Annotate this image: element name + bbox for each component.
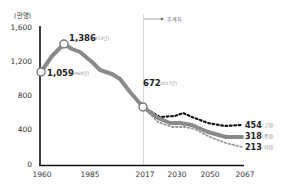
y-tick-1200: 1,200: [11, 57, 33, 66]
marker-2017: [139, 103, 147, 111]
x-tick-2017: 2017: [135, 170, 154, 179]
y-tick-0: 0: [27, 160, 32, 169]
population-chart: (만명) 1,600 1,200 800 400 0 추계치 1960 1985…: [0, 0, 286, 189]
annotation-2017-note: (2017년): [158, 80, 177, 86]
x-tick-1960: 1960: [32, 170, 51, 179]
annotation-high-value: 454: [245, 121, 262, 130]
marker-1972: [60, 40, 68, 48]
marker-1960: [37, 68, 45, 76]
arrow-right-icon: [161, 18, 164, 21]
x-tick-2067: 2067: [235, 170, 254, 179]
annotation-1960-note: (1960년): [70, 70, 89, 76]
x-tick-2050: 2050: [200, 170, 219, 179]
x-tick-1985: 1985: [80, 170, 99, 179]
annotation-medium-value: 318: [245, 132, 262, 141]
y-axis-unit: (만명): [14, 11, 31, 20]
annotation-low-note: (저위): [262, 144, 274, 151]
projection-label: 추계치: [167, 16, 182, 23]
annotation-medium-note: (중위): [262, 133, 274, 140]
annotation-low-value: 213: [245, 143, 262, 152]
annotation-high-note: (고위): [262, 122, 274, 129]
annotation-1972-note: (1972년): [90, 35, 109, 41]
y-tick-1600: 1,600: [11, 23, 33, 32]
x-tick-2030: 2030: [167, 170, 186, 179]
y-tick-400: 400: [18, 125, 33, 134]
y-tick-800: 800: [18, 91, 33, 100]
